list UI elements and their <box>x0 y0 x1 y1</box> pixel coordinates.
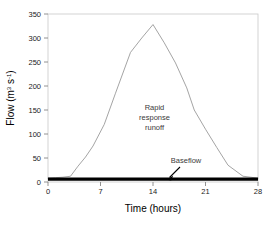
x-tick-label-0: 0 <box>46 187 50 196</box>
annotation-line-response: response <box>139 113 170 122</box>
annotation-line-runoff: runoff <box>145 123 165 132</box>
y-tick-label-200: 200 <box>28 82 41 91</box>
plot-frame <box>48 14 258 182</box>
x-tick-label-21: 21 <box>201 187 209 196</box>
hydrograph-figure: 0 50 100 150 200 250 300 350 0 7 14 21 2… <box>0 0 270 226</box>
figure-container: 0 50 100 150 200 250 300 350 0 7 14 21 2… <box>0 0 270 226</box>
annotation-label-baseflow: Baseflow <box>171 156 202 165</box>
y-axis-title-prefix: Flow (m <box>5 90 16 126</box>
y-tick-label-0: 0 <box>37 178 41 187</box>
y-tick-label-150: 150 <box>28 106 41 115</box>
y-axis-title: Flow (m3 s-1) <box>5 70 16 125</box>
y-axis-title-suffix: ) <box>5 70 16 73</box>
y-tick-label-350: 350 <box>28 10 41 19</box>
y-axis-title-mid: s <box>5 79 16 87</box>
y-tick-label-300: 300 <box>28 34 41 43</box>
x-tick-label-28: 28 <box>254 187 262 196</box>
x-axis-title: Time (hours) <box>125 203 181 214</box>
y-axis-ticks <box>44 14 48 182</box>
x-axis-ticks <box>48 182 258 186</box>
y-tick-label-50: 50 <box>33 154 41 163</box>
y-tick-label-250: 250 <box>28 58 41 67</box>
x-tick-label-14: 14 <box>149 187 157 196</box>
svg-text:Flow (m3 s-1): Flow (m3 s-1) <box>5 70 16 125</box>
y-tick-label-100: 100 <box>28 130 41 139</box>
hydrograph-chart: 0 50 100 150 200 250 300 350 0 7 14 21 2… <box>0 0 270 226</box>
annotation-line-rapid: Rapid <box>145 103 165 112</box>
x-tick-label-7: 7 <box>98 187 102 196</box>
